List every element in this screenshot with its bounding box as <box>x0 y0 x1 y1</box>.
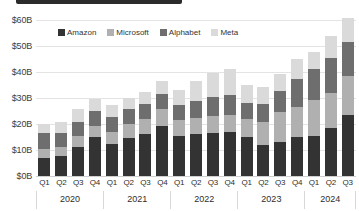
bar-segment-meta[interactable] <box>291 59 303 79</box>
legend-item-alphabet[interactable]: Alphabet <box>160 28 201 37</box>
bar-slot[interactable] <box>221 20 238 176</box>
bar-segment-amazon[interactable] <box>342 115 354 176</box>
bar-segment-meta[interactable] <box>38 124 50 133</box>
bar-segment-meta[interactable] <box>156 81 168 95</box>
stacked-bar[interactable] <box>257 87 269 176</box>
bar-segment-alphabet[interactable] <box>190 101 202 119</box>
bar-slot[interactable] <box>238 20 255 176</box>
bar-segment-microsoft[interactable] <box>55 147 67 155</box>
bar-segment-amazon[interactable] <box>173 136 185 176</box>
bar-segment-microsoft[interactable] <box>241 119 253 137</box>
bar-segment-microsoft[interactable] <box>89 126 101 137</box>
bar-segment-microsoft[interactable] <box>173 120 185 137</box>
bar-segment-microsoft[interactable] <box>325 93 337 129</box>
bar-segment-meta[interactable] <box>55 122 67 133</box>
bar-segment-amazon[interactable] <box>72 147 84 176</box>
stacked-bar[interactable] <box>291 59 303 177</box>
bar-segment-amazon[interactable] <box>156 126 168 176</box>
bar-segment-meta[interactable] <box>72 109 84 121</box>
bar-segment-microsoft[interactable] <box>274 112 286 142</box>
bar-segment-alphabet[interactable] <box>139 104 151 119</box>
bar-segment-microsoft[interactable] <box>139 119 151 134</box>
bar-segment-alphabet[interactable] <box>274 91 286 112</box>
bar-slot[interactable] <box>120 20 137 176</box>
bar-segment-amazon[interactable] <box>190 134 202 176</box>
bar-slot[interactable] <box>255 20 272 176</box>
bar-slot[interactable] <box>154 20 171 176</box>
stacked-bar[interactable] <box>308 52 320 176</box>
bar-slot[interactable] <box>272 20 289 176</box>
stacked-bar[interactable] <box>190 81 202 176</box>
stacked-bar[interactable] <box>38 124 50 176</box>
bar-segment-amazon[interactable] <box>139 134 151 176</box>
bar-segment-microsoft[interactable] <box>291 107 303 137</box>
bar-segment-amazon[interactable] <box>55 156 67 176</box>
bar-segment-amazon[interactable] <box>308 136 320 176</box>
bar-segment-alphabet[interactable] <box>207 97 219 116</box>
bar-slot[interactable] <box>53 20 70 176</box>
stacked-bar[interactable] <box>274 74 286 176</box>
bar-slot[interactable] <box>204 20 221 176</box>
bar-segment-alphabet[interactable] <box>325 58 337 92</box>
bar-segment-microsoft[interactable] <box>38 149 50 158</box>
bar-segment-alphabet[interactable] <box>156 94 168 109</box>
stacked-bar[interactable] <box>55 122 67 176</box>
stacked-bar[interactable] <box>325 36 337 176</box>
bar-segment-amazon[interactable] <box>274 142 286 176</box>
bar-slot[interactable] <box>36 20 53 176</box>
stacked-bar[interactable] <box>106 105 118 176</box>
bar-slot[interactable] <box>188 20 205 176</box>
stacked-bar[interactable] <box>207 73 219 176</box>
bar-segment-amazon[interactable] <box>106 144 118 176</box>
bar-segment-meta[interactable] <box>89 99 101 111</box>
bar-segment-meta[interactable] <box>241 85 253 103</box>
bar-slot[interactable] <box>322 20 339 176</box>
bar-slot[interactable] <box>171 20 188 176</box>
bar-segment-alphabet[interactable] <box>55 133 67 147</box>
bar-segment-amazon[interactable] <box>224 132 236 176</box>
bar-slot[interactable] <box>289 20 306 176</box>
bar-segment-microsoft[interactable] <box>224 115 236 133</box>
legend-item-amazon[interactable]: Amazon <box>58 28 96 37</box>
bar-slot[interactable] <box>306 20 323 176</box>
bar-segment-microsoft[interactable] <box>123 124 135 138</box>
bar-segment-meta[interactable] <box>190 81 202 101</box>
bar-segment-alphabet[interactable] <box>257 104 269 122</box>
bar-segment-meta[interactable] <box>139 92 151 104</box>
stacked-bar[interactable] <box>156 81 168 176</box>
bar-segment-microsoft[interactable] <box>308 100 320 136</box>
bar-slot[interactable] <box>70 20 87 176</box>
bar-segment-amazon[interactable] <box>257 145 269 176</box>
bar-segment-microsoft[interactable] <box>207 116 219 133</box>
bar-segment-microsoft[interactable] <box>72 136 84 147</box>
bar-segment-meta[interactable] <box>207 73 219 98</box>
stacked-bar[interactable] <box>342 18 354 176</box>
bar-segment-meta[interactable] <box>342 18 354 42</box>
bar-segment-alphabet[interactable] <box>89 111 101 125</box>
bar-segment-amazon[interactable] <box>207 133 219 176</box>
bar-slot[interactable] <box>103 20 120 176</box>
stacked-bar[interactable] <box>139 92 151 176</box>
bar-segment-microsoft[interactable] <box>257 122 269 145</box>
bar-slot[interactable] <box>137 20 154 176</box>
bar-segment-meta[interactable] <box>308 52 320 69</box>
bar-segment-meta[interactable] <box>257 87 269 104</box>
bar-segment-microsoft[interactable] <box>106 132 118 143</box>
stacked-bar[interactable] <box>89 99 101 176</box>
bar-segment-amazon[interactable] <box>123 138 135 176</box>
bar-segment-alphabet[interactable] <box>342 42 354 76</box>
bar-segment-meta[interactable] <box>224 69 236 94</box>
bar-segment-amazon[interactable] <box>291 137 303 176</box>
bar-segment-alphabet[interactable] <box>224 95 236 115</box>
stacked-bar[interactable] <box>123 98 135 176</box>
bar-segment-alphabet[interactable] <box>106 117 118 132</box>
legend-item-meta[interactable]: Meta <box>211 28 238 37</box>
stacked-bar[interactable] <box>72 109 84 176</box>
bar-segment-microsoft[interactable] <box>156 109 168 125</box>
bar-segment-alphabet[interactable] <box>291 79 303 108</box>
bar-segment-meta[interactable] <box>173 90 185 104</box>
bar-segment-amazon[interactable] <box>38 158 50 176</box>
bar-segment-meta[interactable] <box>106 105 118 117</box>
bar-slot[interactable] <box>339 20 356 176</box>
stacked-bar[interactable] <box>241 85 253 176</box>
